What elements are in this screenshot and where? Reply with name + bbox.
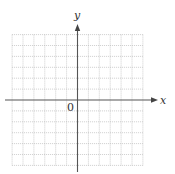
origin-label: 0 [67, 101, 74, 114]
x-axis-label: x [160, 94, 167, 107]
x-axis-arrow-icon [151, 97, 158, 102]
y-axis-arrow-icon [75, 24, 80, 31]
y-axis-label: y [73, 9, 81, 22]
coordinate-plane: x y 0 [0, 0, 175, 174]
